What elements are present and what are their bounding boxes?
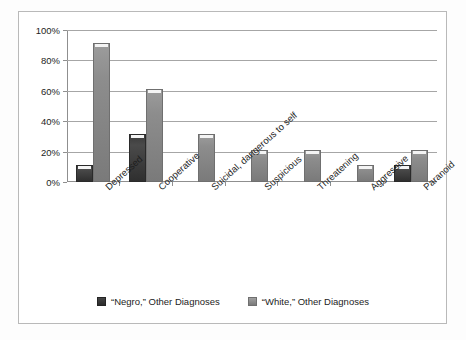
category-group: [67, 30, 120, 182]
legend-swatch-icon: [97, 297, 106, 306]
bar-light: [304, 150, 321, 182]
bar-light: [411, 150, 428, 182]
chart-legend: “Negro,” Other Diagnoses“White,” Other D…: [0, 296, 466, 307]
legend-item: “Negro,” Other Diagnoses: [97, 296, 220, 307]
y-axis-tick-label: 40%: [41, 116, 60, 127]
y-axis-tick-label: 80%: [41, 55, 60, 66]
y-axis-tick-label: 20%: [41, 146, 60, 157]
legend-label: “Negro,” Other Diagnoses: [111, 296, 220, 307]
legend-label: “White,” Other Diagnoses: [262, 296, 369, 307]
category-group: [278, 30, 331, 182]
legend-item: “White,” Other Diagnoses: [248, 296, 369, 307]
y-axis-tick-mark: [63, 182, 67, 183]
bar-light: [93, 43, 110, 182]
y-axis-tick-label: 0%: [46, 177, 60, 188]
category-group: [120, 30, 173, 182]
legend-swatch-icon: [248, 297, 257, 306]
y-axis-tick-label: 60%: [41, 85, 60, 96]
y-axis-tick-label: 100%: [36, 25, 60, 36]
category-group: [384, 30, 437, 182]
bar-light: [146, 89, 163, 182]
chart-figure: 0%20%40%60%80%100% DepressedCooperativeS…: [0, 0, 466, 340]
bar-dark: [76, 165, 93, 182]
